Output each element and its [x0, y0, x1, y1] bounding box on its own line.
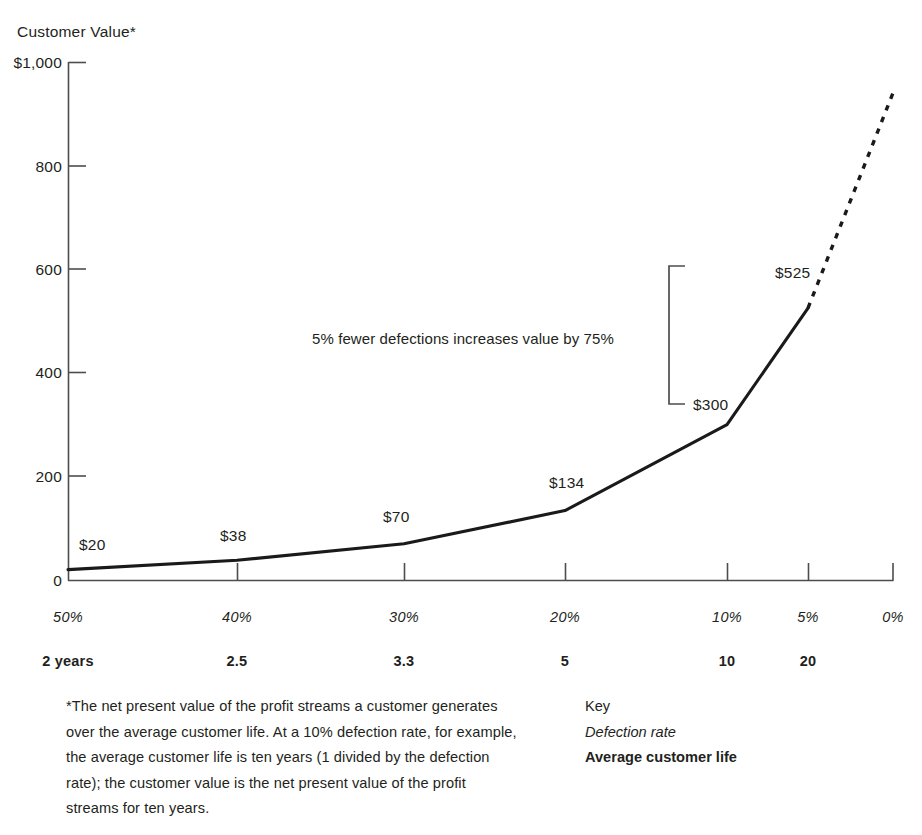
point-label-20: $20	[79, 536, 105, 554]
x-tick-rate-10: 10%	[687, 609, 767, 625]
point-label-70: $70	[383, 508, 409, 526]
customer-value-chart: Customer Value* $1,000 800 600 400 200 0	[0, 0, 922, 835]
x-tick-rate-30: 30%	[364, 609, 444, 625]
bracket-annotation-text: 5% fewer defections increases value by 7…	[312, 330, 614, 347]
x-tick-life-20: 20	[763, 653, 853, 669]
x-axis-ticks	[238, 563, 894, 581]
footnote-line-4: rate); the customer value is the net pre…	[66, 771, 566, 797]
y-axis-ticks	[69, 63, 87, 477]
customer-value-line-projected	[808, 93, 893, 308]
point-label-300: $300	[693, 396, 728, 414]
footnote-line-1: *The net present value of the profit str…	[66, 694, 566, 720]
footnote-line-2: over the average customer life. At a 10%…	[66, 720, 566, 746]
footnote: *The net present value of the profit str…	[66, 694, 566, 822]
x-tick-life-10: 10	[682, 653, 772, 669]
customer-value-line-observed	[68, 308, 808, 569]
point-label-134: $134	[549, 474, 584, 492]
key-title: Key	[585, 694, 885, 720]
x-tick-rate-5: 5%	[768, 609, 848, 625]
x-tick-rate-20: 20%	[525, 609, 605, 625]
x-tick-life-2-years: 2 years	[23, 653, 113, 669]
x-tick-life-5: 5	[520, 653, 610, 669]
key-item-defection-rate: Defection rate	[585, 720, 885, 746]
point-label-38: $38	[220, 527, 246, 545]
value-increase-bracket	[669, 266, 685, 404]
point-label-525: $525	[775, 264, 810, 282]
x-tick-life-2-5: 2.5	[192, 653, 282, 669]
chart-key: Key Defection rate Average customer life	[585, 694, 885, 771]
footnote-line-3: the average customer life is ten years (…	[66, 745, 566, 771]
x-tick-rate-50: 50%	[28, 609, 108, 625]
x-tick-life-3-3: 3.3	[359, 653, 449, 669]
x-tick-rate-0: 0%	[853, 609, 922, 625]
key-item-average-customer-life: Average customer life	[585, 745, 885, 771]
x-tick-rate-40: 40%	[197, 609, 277, 625]
footnote-line-5: streams for ten years.	[66, 796, 566, 822]
